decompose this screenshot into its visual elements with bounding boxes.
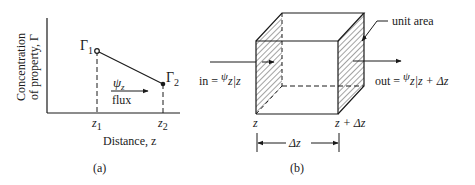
in-label: in = ψz|z (199, 70, 241, 88)
y-axis-label-line2: of property, Γ (27, 34, 41, 100)
z2-tick-label: z2 (157, 116, 168, 132)
caption-a: (a) (93, 161, 106, 175)
caption-b: (b) (290, 161, 304, 175)
flux-symbol: ψz (113, 75, 125, 92)
gamma2-label: Γ2 (166, 70, 179, 88)
out-label: out = ψz|z + Δz (375, 70, 449, 88)
panel-a: Concentration of property, Γ Γ1 Γ2 ψz fl… (14, 18, 180, 175)
left-face-z-label: z (252, 116, 258, 130)
left-face-hatched (256, 13, 282, 114)
gamma1-label: Γ1 (80, 38, 93, 56)
figure: Concentration of property, Γ Γ1 Γ2 ψz fl… (0, 0, 475, 185)
x-axis-label: Distance, z (103, 134, 156, 148)
point-gamma1 (95, 49, 100, 54)
delta-z-label: Δz (288, 136, 301, 150)
flux-label: flux (112, 93, 131, 107)
y-axis-label-line1: Concentration (14, 33, 28, 101)
z1-tick-label: z1 (91, 116, 102, 132)
panel-b: unit area in = ψz|z out = ψz|z + Δz z z … (199, 13, 449, 175)
unit-area-leader (362, 21, 388, 41)
unit-area-label: unit area (392, 14, 434, 28)
point-gamma2 (161, 82, 166, 87)
concentration-line (97, 51, 163, 84)
right-face-hatched (338, 13, 364, 114)
right-face-z-label: z + Δz (334, 116, 366, 130)
